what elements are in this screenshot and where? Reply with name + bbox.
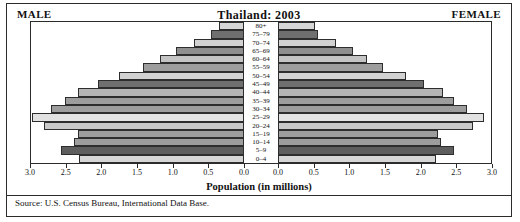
male-bar — [78, 130, 244, 138]
axis-tick-label: 2.0 — [96, 168, 106, 177]
axis-tick-label: 1.0 — [168, 168, 178, 177]
male-bar — [32, 113, 244, 121]
pyramid-row: 50–54 — [31, 72, 491, 80]
age-group-label: 80+ — [244, 22, 278, 30]
axis-title: Population (in millions) — [7, 181, 511, 192]
male-bar — [44, 122, 244, 130]
axis-tick-label: 0.0 — [273, 168, 283, 177]
female-bar — [278, 122, 473, 130]
pyramid-row: 65–69 — [31, 47, 491, 55]
male-bar — [160, 55, 244, 63]
pyramid-row: 20–24 — [31, 122, 491, 130]
female-bar — [278, 39, 336, 47]
female-bar — [278, 105, 467, 113]
female-legend-label: FEMALE — [452, 8, 501, 20]
male-bar — [65, 97, 244, 105]
age-group-label: 20–24 — [244, 122, 278, 130]
age-group-label: 35–39 — [244, 97, 278, 105]
female-bar — [278, 130, 439, 138]
pyramid-row: 5–9 — [31, 146, 491, 154]
age-group-label: 40–44 — [244, 88, 278, 96]
male-bar — [98, 80, 244, 88]
female-bar — [278, 63, 383, 71]
male-bar — [211, 30, 244, 38]
axis-tick-label: 2.0 — [416, 168, 426, 177]
source-divider — [7, 195, 511, 196]
pyramid-row: 70–74 — [31, 39, 491, 47]
pyramid-rows: 0–45–910–1415–1920–2425–2930–3435–3940–4… — [31, 22, 491, 163]
age-group-label: 30–34 — [244, 105, 278, 113]
age-group-label: 50–54 — [244, 72, 278, 80]
female-bar — [278, 138, 441, 146]
pyramid-plot-area: 0–45–910–1415–1920–2425–2930–3435–3940–4… — [30, 21, 492, 164]
pyramid-row: 80+ — [31, 22, 491, 30]
female-bar — [278, 30, 318, 38]
axis-tick-label: 0.5 — [309, 168, 319, 177]
male-bar — [51, 105, 244, 113]
age-group-label: 55–59 — [244, 63, 278, 71]
pyramid-row: 35–39 — [31, 97, 491, 105]
female-bar — [278, 146, 454, 154]
male-bar — [74, 138, 244, 146]
age-group-label: 65–69 — [244, 47, 278, 55]
male-bar — [78, 88, 244, 96]
age-group-label: 45–49 — [244, 80, 278, 88]
age-group-label: 0–4 — [244, 155, 278, 163]
male-bar — [119, 72, 244, 80]
pyramid-row: 30–34 — [31, 105, 491, 113]
pyramid-row: 75–79 — [31, 30, 491, 38]
female-bar — [278, 155, 436, 163]
age-group-label: 15–19 — [244, 130, 278, 138]
pyramid-row: 0–4 — [31, 155, 491, 163]
age-group-label: 60–64 — [244, 55, 278, 63]
age-group-label: 25–29 — [244, 113, 278, 121]
pyramid-row: 15–19 — [31, 130, 491, 138]
axis-tick-labels: 3.02.52.01.51.00.50.00.00.51.01.52.02.53… — [7, 168, 513, 180]
pyramid-row: 60–64 — [31, 55, 491, 63]
female-bar — [278, 97, 454, 105]
axis-tick-label: 0.5 — [203, 168, 213, 177]
axis-tick-label: 3.0 — [487, 168, 497, 177]
male-bar — [79, 155, 244, 163]
male-bar — [219, 22, 245, 30]
axis-tick-label: 0.0 — [239, 168, 249, 177]
male-bar — [194, 39, 244, 47]
female-bar — [278, 47, 353, 55]
pyramid-row: 40–44 — [31, 88, 491, 96]
age-group-label: 75–79 — [244, 30, 278, 38]
female-bar — [278, 55, 367, 63]
pyramid-row: 25–29 — [31, 113, 491, 121]
male-bar — [61, 146, 244, 154]
pyramid-row: 10–14 — [31, 138, 491, 146]
source-note: Source: U.S. Census Bureau, Internationa… — [15, 198, 209, 208]
male-bar — [176, 47, 244, 55]
axis-tick-label: 2.5 — [451, 168, 461, 177]
female-bar — [278, 113, 484, 121]
female-bar — [278, 80, 424, 88]
pyramid-row: 55–59 — [31, 63, 491, 71]
age-group-label: 5–9 — [244, 146, 278, 154]
pyramid-row: 45–49 — [31, 80, 491, 88]
male-bar — [143, 63, 244, 71]
female-bar — [278, 72, 406, 80]
female-bar — [278, 22, 315, 30]
axis-tick-label: 2.5 — [61, 168, 71, 177]
axis-tick-label: 1.5 — [132, 168, 142, 177]
axis-tick-label: 1.0 — [344, 168, 354, 177]
axis-tick-label: 1.5 — [380, 168, 390, 177]
chart-frame: MALE Thailand: 2003 FEMALE 0–45–910–1415… — [6, 3, 512, 217]
age-group-label: 70–74 — [244, 39, 278, 47]
female-bar — [278, 88, 443, 96]
axis-tick-label: 3.0 — [25, 168, 35, 177]
age-group-label: 10–14 — [244, 138, 278, 146]
